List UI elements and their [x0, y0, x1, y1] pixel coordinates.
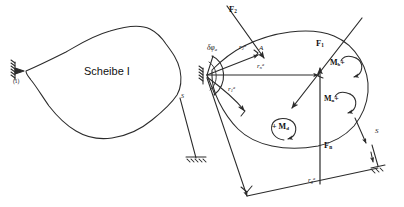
strut-s-label: S [375, 128, 379, 135]
virtual-rotation-label: δφa [207, 44, 217, 53]
radius-r2-label: r2a [239, 44, 246, 52]
moment-mn-label: Mn+ [324, 95, 339, 104]
strut-left [180, 98, 206, 162]
mechanics-figure: Scheibe I (1) S F2 F1 Fn Mb+ Mn+ + Md r2… [0, 0, 404, 207]
moment-mb-label: Mb+ [330, 59, 345, 68]
joint-s-label: S [181, 93, 184, 99]
radius-rg [207, 78, 247, 196]
freebody-outline [212, 31, 368, 148]
force-f2-label: F2 [229, 5, 237, 15]
support-1 [11, 60, 24, 80]
support-1-label: (1) [13, 79, 19, 85]
radius-r1-label: r1a [228, 86, 235, 94]
page-title: Scheibe I [84, 66, 130, 77]
pole-support [199, 66, 203, 84]
force-f1-label: F1 [316, 39, 324, 49]
moment-md-label: + Md [272, 123, 289, 132]
radius-rg-label: rga [308, 177, 315, 185]
right-angle-rg [241, 186, 252, 192]
strut-right [355, 118, 385, 173]
moment-md-arc [288, 120, 296, 139]
scheibe-i-outline [26, 26, 181, 139]
figure-canvas [0, 0, 404, 207]
force-fn-label: Fn [324, 141, 332, 151]
radius-rn-label: rna [257, 63, 264, 71]
moment-mn-arc [348, 94, 356, 113]
point-a-label: A [259, 45, 263, 52]
